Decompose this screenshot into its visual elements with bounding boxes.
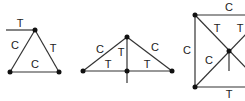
joint-bottom-right <box>57 70 62 75</box>
joint-top <box>33 28 38 33</box>
joint-bottom-left <box>8 70 13 75</box>
truss-diagrams: T C T C C C T T T C C T T C T <box>0 0 245 101</box>
joint-bottom-right <box>170 69 175 74</box>
label-bottom-left: T <box>105 58 112 70</box>
label-left-rafter: C <box>96 43 104 55</box>
label-bottom: C <box>31 58 39 70</box>
cross-braced-frame: C C T T C T <box>183 1 245 100</box>
label-diag-left-upper: T <box>214 22 221 34</box>
label-bottom: T <box>226 88 233 100</box>
triangle-truss: T C T C <box>6 17 62 75</box>
label-bottom-right: T <box>144 58 151 70</box>
label-top: C <box>225 1 233 13</box>
label-right-rafter: C <box>151 41 159 53</box>
joint-center <box>227 49 232 54</box>
joint-bottom-left <box>193 85 198 90</box>
label-left: C <box>11 39 19 51</box>
label-diag-right-upper: T <box>237 22 244 34</box>
joint-bottom-middle <box>125 69 130 74</box>
label-diag-left-lower: C <box>205 54 213 66</box>
king-post-truss: C C T T T <box>81 35 175 84</box>
joint-top-left <box>193 13 198 18</box>
label-right: T <box>50 42 57 54</box>
label-load: T <box>17 17 24 29</box>
label-left: C <box>183 44 191 56</box>
joint-bottom-left <box>81 69 86 74</box>
label-king-post: T <box>118 46 125 58</box>
joint-apex <box>125 35 130 40</box>
